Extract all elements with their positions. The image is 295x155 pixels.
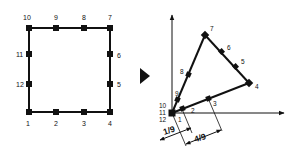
node-9 bbox=[53, 25, 59, 31]
label-2: 2 bbox=[54, 120, 58, 127]
label-10: 10 bbox=[159, 102, 167, 109]
square-outline bbox=[29, 28, 110, 112]
node-4 bbox=[107, 109, 113, 115]
node-8 bbox=[81, 25, 87, 31]
label-9: 9 bbox=[54, 14, 58, 21]
node-10 bbox=[26, 25, 32, 31]
label-5: 5 bbox=[117, 81, 121, 88]
node-2 bbox=[53, 109, 59, 115]
node-7 bbox=[107, 25, 113, 31]
label-4: 4 bbox=[108, 120, 112, 127]
label-3: 3 bbox=[82, 120, 86, 127]
dimension-label-4-9: 4/9 bbox=[193, 131, 208, 144]
label-1: 1 bbox=[26, 120, 30, 127]
node-1 bbox=[26, 109, 32, 115]
label-2: 2 bbox=[191, 107, 195, 114]
node-9 bbox=[174, 96, 181, 103]
label-8: 8 bbox=[180, 68, 184, 75]
node-5 bbox=[232, 63, 239, 70]
label-6: 6 bbox=[227, 44, 231, 51]
node-8 bbox=[185, 71, 192, 78]
node-12 bbox=[26, 81, 32, 87]
node-5 bbox=[107, 81, 113, 87]
diagram-canvas: 1 2 3 4 5 6 7 8 9 10 11 12 bbox=[0, 0, 295, 155]
square-nodes bbox=[26, 25, 113, 115]
node-3 bbox=[81, 109, 87, 115]
label-10: 10 bbox=[23, 14, 31, 21]
label-12: 12 bbox=[16, 81, 24, 88]
mapped-triangle-element: 1 2 3 4 5 6 7 8 9 10 11 12 1/9 4/9 bbox=[159, 15, 284, 146]
label-5: 5 bbox=[241, 58, 245, 65]
label-7: 7 bbox=[210, 25, 214, 32]
label-1: 1 bbox=[178, 116, 182, 123]
label-3: 3 bbox=[213, 100, 217, 107]
label-11: 11 bbox=[159, 109, 166, 116]
label-7: 7 bbox=[108, 14, 112, 21]
label-6: 6 bbox=[117, 52, 121, 59]
transform-arrow-icon bbox=[140, 68, 150, 84]
label-11: 11 bbox=[16, 51, 23, 58]
label-12: 12 bbox=[159, 116, 167, 123]
node-6 bbox=[107, 51, 113, 57]
node-11 bbox=[26, 51, 32, 57]
label-4: 4 bbox=[255, 83, 259, 90]
label-8: 8 bbox=[82, 14, 86, 21]
square-element: 1 2 3 4 5 6 7 8 9 10 11 12 bbox=[16, 14, 121, 127]
label-9: 9 bbox=[175, 90, 179, 97]
